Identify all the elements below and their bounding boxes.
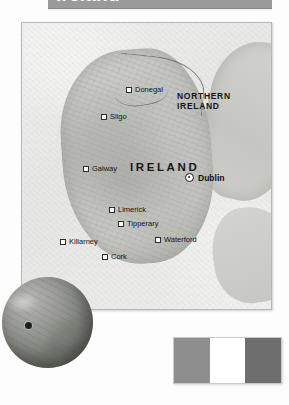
location-marker-icon bbox=[25, 322, 32, 329]
city-label: Limerick bbox=[118, 205, 146, 214]
city-tipperary[interactable]: Tipperary bbox=[118, 214, 158, 232]
city-square-icon bbox=[126, 87, 132, 93]
title-banner: Ireland bbox=[48, 0, 272, 9]
city-square-icon bbox=[60, 239, 66, 245]
flag-band-hoist bbox=[174, 338, 210, 383]
capital-label: Dublin bbox=[198, 173, 224, 183]
city-square-icon bbox=[102, 254, 108, 260]
city-square-icon bbox=[109, 207, 115, 213]
capital-circle-dot-icon bbox=[185, 173, 194, 182]
city-square-icon bbox=[83, 166, 89, 172]
city-label: Killarney bbox=[69, 237, 98, 246]
city-square-icon bbox=[118, 221, 124, 227]
flag-band-fly bbox=[245, 338, 281, 383]
city-killarney[interactable]: Killarney bbox=[60, 232, 98, 250]
city-label: Sligo bbox=[110, 112, 127, 121]
ireland-map[interactable]: NORTHERN IRELAND IRELAND Donegal Sligo G… bbox=[21, 22, 272, 310]
city-label: Tipperary bbox=[127, 219, 158, 228]
city-square-icon bbox=[155, 237, 161, 243]
ireland-flag[interactable] bbox=[173, 337, 282, 384]
globe-locator[interactable] bbox=[2, 277, 93, 368]
city-sligo[interactable]: Sligo bbox=[101, 107, 127, 125]
city-label: Galway bbox=[92, 164, 117, 173]
city-donegal[interactable]: Donegal bbox=[126, 80, 163, 98]
city-square-icon bbox=[101, 114, 107, 120]
flag-band-middle bbox=[210, 338, 246, 383]
city-label: Waterford bbox=[164, 235, 197, 244]
page-root: Ireland NORTHERN IRELAND IRELAND Donegal… bbox=[0, 0, 289, 405]
city-waterford[interactable]: Waterford bbox=[155, 230, 197, 248]
region-label-northern-ireland: NORTHERN IRELAND bbox=[177, 92, 231, 111]
city-label: Donegal bbox=[135, 85, 163, 94]
capital-dublin[interactable]: Dublin bbox=[185, 168, 224, 186]
city-label: Cork bbox=[111, 252, 127, 261]
globe-landmass-texture bbox=[2, 277, 93, 368]
city-galway[interactable]: Galway bbox=[83, 159, 117, 177]
city-cork[interactable]: Cork bbox=[102, 247, 127, 265]
page-title: Ireland bbox=[56, 0, 120, 7]
